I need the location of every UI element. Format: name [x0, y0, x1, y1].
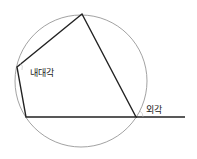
interior-angle-label: 내대각: [30, 66, 54, 79]
diagram-svg: [0, 0, 197, 159]
circumscribed-circle: [15, 15, 147, 147]
exterior-angle-label: 외각: [146, 103, 162, 116]
exterior-angle-arc: [140, 111, 143, 117]
cyclic-quadrilateral-diagram: 내대각 외각: [0, 0, 197, 159]
